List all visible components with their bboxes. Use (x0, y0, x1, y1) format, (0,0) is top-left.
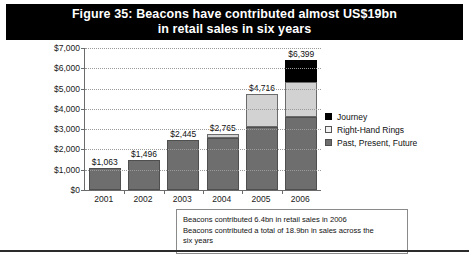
legend-swatch-icon (325, 126, 332, 133)
bar-value-label: $2,445 (169, 129, 197, 139)
bar-group[interactable] (128, 160, 160, 190)
bar-segment[interactable] (207, 134, 239, 138)
legend-item-label: Right-Hand Rings (337, 125, 404, 135)
y-axis-labels: $7,000$6,000$5,000$4,000$3,000$2,000$1,0… (24, 44, 80, 192)
x-axis-labels: 200120022003200420052006 (84, 194, 320, 208)
y-axis-tickmark (81, 149, 85, 150)
legend-swatch-icon (325, 139, 332, 146)
gridline (85, 48, 321, 49)
y-axis-tickmark (81, 48, 85, 49)
y-axis-tickmark (81, 170, 85, 171)
footnote-box: Beacons contributed 6.4bn in retail sale… (176, 209, 408, 254)
footnote-line-3: six years (183, 236, 401, 247)
figure-title-line-1: Figure 35: Beacons have contributed almo… (72, 7, 397, 21)
y-axis-tick-label: $0 (71, 185, 80, 195)
bar-group[interactable] (89, 168, 121, 190)
y-axis-tick-label: $7,000 (54, 43, 80, 53)
bar-group[interactable] (207, 134, 239, 190)
bar-segment[interactable] (167, 140, 199, 190)
y-axis-tickmark (81, 68, 85, 69)
y-axis-tick-label: $3,000 (54, 124, 80, 134)
gridline (85, 68, 321, 69)
y-axis-tick-label: $1,000 (54, 165, 80, 175)
bottom-rule (0, 250, 469, 252)
x-axis-tick-label: 2001 (94, 194, 113, 204)
gridline (85, 89, 321, 90)
gridline (85, 170, 321, 171)
footnote-line-1: Beacons contributed 6.4bn in retail sale… (183, 215, 401, 226)
bar-value-label: $6,399 (287, 49, 315, 59)
bar-segment[interactable] (285, 117, 317, 190)
gridline (85, 149, 321, 150)
figure-title: Figure 35: Beacons have contributed almo… (72, 7, 397, 37)
legend-item[interactable]: Journey (325, 110, 455, 123)
bar-segment[interactable] (89, 168, 121, 190)
plot-area: $1,063$1,496$2,445$2,765$4,716$6,399 (84, 48, 321, 191)
y-axis-tickmark (81, 109, 85, 110)
legend-item[interactable]: Right-Hand Rings (325, 123, 455, 136)
bar-group[interactable] (167, 140, 199, 190)
legend-item-label: Past, Present, Future (337, 138, 417, 148)
y-axis-tickmark (81, 89, 85, 90)
x-axis-tick-label: 2003 (173, 194, 192, 204)
y-axis-tick-label: $5,000 (54, 84, 80, 94)
bar-segment[interactable] (246, 94, 278, 126)
x-axis-tick-label: 2004 (212, 194, 231, 204)
bar-segment[interactable] (207, 138, 239, 190)
figure-title-banner: Figure 35: Beacons have contributed almo… (6, 4, 463, 40)
legend-item-label: Journey (337, 112, 367, 122)
y-axis-tick-label: $6,000 (54, 63, 80, 73)
legend-item[interactable]: Past, Present, Future (325, 136, 455, 149)
figure-title-line-2: in retail sales in six years (158, 22, 312, 36)
x-axis-tick-label: 2006 (291, 194, 310, 204)
x-axis-tick-label: 2002 (134, 194, 153, 204)
bar-segment[interactable] (285, 82, 317, 116)
gridline (85, 109, 321, 110)
figure-container: Figure 35: Beacons have contributed almo… (0, 0, 469, 258)
chart-legend: JourneyRight-Hand RingsPast, Present, Fu… (325, 110, 455, 149)
bar-segment[interactable] (246, 127, 278, 190)
bar-value-label: $1,063 (91, 157, 119, 167)
x-axis-tick-label: 2005 (252, 194, 271, 204)
bar-segment[interactable] (128, 160, 160, 190)
y-axis-tickmark (81, 190, 85, 191)
bars-layer: $1,063$1,496$2,445$2,765$4,716$6,399 (85, 48, 321, 190)
y-axis-tickmark (81, 129, 85, 130)
footnote-line-2: Beacons contributed a total of 18.9bn in… (183, 226, 401, 237)
bar-segment[interactable] (285, 60, 317, 82)
legend-swatch-icon (325, 113, 332, 120)
y-axis-tick-label: $2,000 (54, 144, 80, 154)
y-axis-tick-label: $4,000 (54, 104, 80, 114)
bar-value-label: $2,765 (209, 123, 237, 133)
gridline (85, 129, 321, 130)
